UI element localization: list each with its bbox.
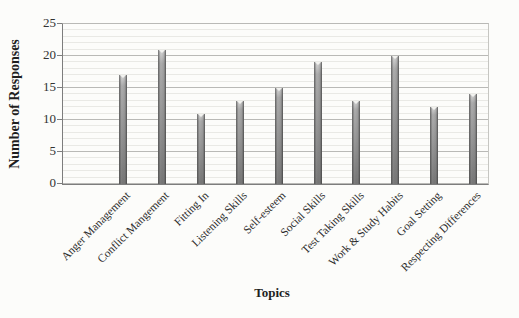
category-label: Conflict Mangement bbox=[95, 189, 172, 266]
y-tick-label: 15 bbox=[26, 79, 56, 95]
plot-area bbox=[62, 23, 489, 185]
y-tick-label: 10 bbox=[26, 111, 56, 127]
y-tick-label: 0 bbox=[26, 175, 56, 191]
y-axis-title: Number of Responses bbox=[7, 39, 23, 169]
y-tick-mark bbox=[57, 119, 62, 120]
y-tick-label: 25 bbox=[26, 15, 56, 31]
y-tick-mark bbox=[57, 183, 62, 184]
bar-self-esteem bbox=[275, 88, 283, 184]
category-label: Anger Management bbox=[59, 189, 133, 263]
bar-listening-skills bbox=[236, 101, 244, 184]
y-tick-mark bbox=[57, 87, 62, 88]
bar-respecting-differences bbox=[469, 94, 477, 184]
bar-anger-management bbox=[119, 75, 127, 184]
bar-chart-figure: Number of Responses 0510152025 Anger Man… bbox=[0, 0, 519, 318]
y-tick-mark bbox=[57, 55, 62, 56]
y-tick-label: 20 bbox=[26, 47, 56, 63]
bar-fitting-in bbox=[197, 114, 205, 184]
bar-goal-setting bbox=[430, 107, 438, 184]
bar-conflict-mangement bbox=[158, 50, 166, 184]
bar-social-skills bbox=[314, 62, 322, 184]
y-tick-label: 5 bbox=[26, 143, 56, 159]
category-label: Respecting Differences bbox=[398, 189, 483, 274]
bar-work-study-habits bbox=[391, 56, 399, 184]
y-tick-mark bbox=[57, 23, 62, 24]
y-tick-mark bbox=[57, 151, 62, 152]
x-axis-title: Topics bbox=[254, 285, 290, 301]
bar-test-taking-skills bbox=[352, 101, 360, 184]
